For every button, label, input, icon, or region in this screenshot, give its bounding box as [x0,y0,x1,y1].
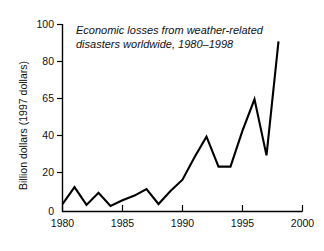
x-tick-label-1980: 1980 [51,217,75,229]
y-tick-label-40: 40 [42,129,54,141]
x-tick-label-1995: 1995 [231,217,255,229]
y-axis-title: Billion dollars (1997 dollars) [17,61,29,190]
x-tick-label-1990: 1990 [171,217,195,229]
y-tick-label-65: 65 [42,92,54,104]
chart-figure: Billion dollars (1997 dollars) 100 80 65… [0,0,324,251]
chart-title-line-1: Economic losses from weather-related [76,24,264,36]
x-tick-label-1985: 1985 [111,217,135,229]
chart-title-line-2: disasters worldwide, 1980–1998 [76,38,234,50]
y-tick-label-0: 0 [48,205,54,217]
data-series-line [63,41,279,206]
y-tick-label-80: 80 [42,55,54,67]
y-tick-label-100: 100 [36,18,54,30]
line-chart: Billion dollars (1997 dollars) 100 80 65… [0,0,324,251]
x-tick-label-2000: 2000 [291,217,315,229]
y-tick-label-20: 20 [42,166,54,178]
axis-spines [63,24,303,212]
